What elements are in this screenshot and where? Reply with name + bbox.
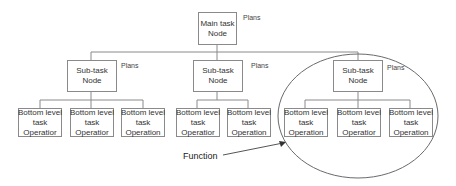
node-label: task	[33, 118, 48, 128]
node-label: Bottom level	[18, 108, 62, 118]
node-label: Operatior	[23, 128, 56, 138]
main-task-node: Main task Node	[198, 12, 237, 45]
bottom-operation-node: Bottom level task Operation	[227, 108, 271, 137]
node-label: Operatior	[181, 128, 214, 138]
node-label: Bottom level	[284, 108, 328, 118]
node-label: task	[299, 118, 314, 128]
node-label: task	[136, 118, 151, 128]
node-label: Sub-task	[342, 66, 374, 76]
node-label: task	[404, 118, 419, 128]
arrowhead-icon	[279, 141, 286, 147]
node-label: Operatior	[75, 128, 108, 138]
node-label: Bottom level	[70, 108, 114, 118]
subtask-node-3: Sub-task Node	[333, 60, 383, 92]
node-label: task	[352, 118, 367, 128]
plans-annotation: Plans	[387, 64, 405, 71]
bottom-operation-node: Bottom level task Operatior	[176, 108, 220, 137]
node-label: Bottom level	[176, 108, 220, 118]
node-label: Bottom level	[121, 108, 165, 118]
plans-annotation: Plans	[121, 62, 139, 69]
node-label: Operation	[288, 128, 323, 138]
function-callout-label: Function	[183, 151, 218, 161]
node-label: Node	[208, 29, 227, 39]
node-label: Sub-task	[76, 66, 108, 76]
plans-annotation: Plans	[243, 14, 261, 21]
node-label: Node	[208, 76, 227, 86]
bottom-operation-node: Bottom level task Operation	[284, 108, 328, 137]
node-label: Main task	[200, 19, 234, 29]
node-label: Node	[348, 76, 367, 86]
node-label: task	[242, 118, 257, 128]
node-label: Operation	[393, 128, 428, 138]
node-label: Bottom level	[227, 108, 271, 118]
bottom-operation-node: Bottom level task Operatior	[337, 108, 381, 137]
bottom-operation-node: Bottom level task Operatior	[18, 108, 62, 137]
bottom-operation-node: Bottom level task Operation	[389, 108, 433, 137]
bottom-operation-node: Bottom level task Operation	[121, 108, 165, 137]
node-label: Node	[82, 76, 101, 86]
subtask-node-2: Sub-task Node	[193, 60, 243, 92]
bottom-operation-node: Bottom level task Operatior	[70, 108, 114, 137]
node-label: Sub-task	[202, 66, 234, 76]
node-label: Bottom level	[389, 108, 433, 118]
node-label: Operation	[231, 128, 266, 138]
node-label: Bottom level	[337, 108, 381, 118]
subtask-node-1: Sub-task Node	[67, 60, 117, 92]
plans-annotation: Plans	[251, 62, 269, 69]
node-label: Operation	[125, 128, 160, 138]
node-label: task	[85, 118, 100, 128]
node-label: Operatior	[342, 128, 375, 138]
node-label: task	[191, 118, 206, 128]
